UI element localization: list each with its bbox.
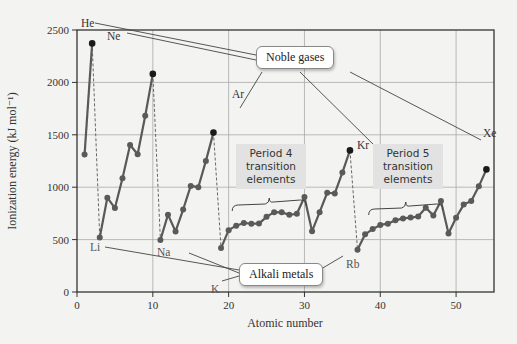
period4-line2: transition xyxy=(240,160,302,173)
noble-gas-point xyxy=(210,129,217,136)
leader-line-kr xyxy=(300,72,377,148)
data-point xyxy=(241,220,247,226)
data-point xyxy=(195,184,201,190)
data-point xyxy=(226,227,232,233)
data-point xyxy=(82,152,88,158)
period5-line2: transition xyxy=(377,160,439,173)
data-point xyxy=(97,235,103,241)
series-line xyxy=(160,133,213,240)
period5-transition-label: Period 5 transition elements xyxy=(373,144,443,189)
y-tick-label: 1500 xyxy=(47,129,70,141)
dashed-drop xyxy=(153,74,161,240)
noble-gas-point xyxy=(483,166,490,173)
data-point xyxy=(446,231,452,237)
data-point xyxy=(294,211,300,217)
data-point xyxy=(256,221,262,227)
x-tick-label: 10 xyxy=(147,299,159,311)
label-xe: Xe xyxy=(483,127,496,139)
data-point xyxy=(370,226,376,232)
data-point xyxy=(112,205,118,211)
label-na: Na xyxy=(157,246,170,258)
period4-transition-label: Period 4 transition elements xyxy=(236,144,306,189)
transition-braces xyxy=(232,198,443,215)
data-point xyxy=(142,113,148,119)
leader-line-li xyxy=(105,247,239,270)
period4-line1: Period 4 xyxy=(240,147,302,160)
label-he: He xyxy=(81,17,94,29)
noble-gases-callout: Noble gases xyxy=(256,46,334,69)
x-tick-label: 20 xyxy=(223,299,235,311)
data-point xyxy=(180,207,186,213)
data-point xyxy=(301,194,307,200)
data-point xyxy=(332,190,338,196)
data-point xyxy=(339,170,345,176)
x-tick-label: 0 xyxy=(74,299,80,311)
data-point xyxy=(173,228,179,234)
data-point xyxy=(233,223,239,229)
series-line xyxy=(85,43,93,154)
data-point xyxy=(248,221,254,227)
data-point xyxy=(392,217,398,223)
data-point xyxy=(408,215,414,221)
period5-line3: elements xyxy=(377,173,439,186)
label-rb: Rb xyxy=(346,258,360,270)
label-ar: Ar xyxy=(232,88,244,100)
dashed-drop xyxy=(350,150,358,249)
data-point xyxy=(362,231,368,237)
label-li: Li xyxy=(90,241,100,253)
dashed-drop xyxy=(213,133,221,248)
data-point xyxy=(127,142,133,148)
noble-gas-point xyxy=(150,71,157,78)
period4-line3: elements xyxy=(240,173,302,186)
x-axis-ticks: 01020304050 xyxy=(74,292,462,311)
label-k: K xyxy=(211,283,220,295)
data-point xyxy=(324,190,330,196)
data-point xyxy=(377,222,383,228)
noble-gas-point xyxy=(89,40,96,47)
leader-line-ne xyxy=(127,33,256,60)
y-tick-label: 2000 xyxy=(47,76,70,88)
x-tick-label: 30 xyxy=(299,299,311,311)
data-point xyxy=(165,212,171,218)
data-point xyxy=(157,237,163,243)
data-point xyxy=(203,158,209,164)
data-point xyxy=(309,228,315,234)
data-point xyxy=(438,198,444,204)
x-tick-label: 50 xyxy=(451,299,463,311)
series-line xyxy=(100,74,153,238)
data-point xyxy=(218,245,224,251)
y-axis-title: Ionization energy (kJ mol⁻¹) xyxy=(5,92,19,229)
data-point xyxy=(188,183,194,189)
label-ne: Ne xyxy=(107,30,120,42)
data-point xyxy=(468,198,474,204)
leader-line-k xyxy=(222,276,239,281)
x-tick-label: 40 xyxy=(375,299,387,311)
data-point xyxy=(400,215,406,221)
data-point xyxy=(286,212,292,218)
data-point xyxy=(415,214,421,220)
data-point xyxy=(279,209,285,215)
data-point xyxy=(271,209,277,215)
data-point xyxy=(135,151,141,157)
data-point xyxy=(423,205,429,211)
y-tick-label: 500 xyxy=(53,234,70,246)
data-point xyxy=(317,209,323,215)
alkali-metals-callout: Alkali metals xyxy=(239,263,323,286)
data-point xyxy=(355,247,361,253)
y-tick-label: 1000 xyxy=(47,181,70,193)
data-point xyxy=(430,212,436,218)
y-tick-label: 2500 xyxy=(47,24,70,36)
data-point xyxy=(385,221,391,227)
x-axis-title: Atomic number xyxy=(247,316,323,330)
dashed-drop xyxy=(92,43,100,237)
data-point xyxy=(453,215,459,221)
data-point xyxy=(476,183,482,189)
label-kr: Kr xyxy=(357,139,369,151)
data-point xyxy=(461,202,467,208)
data-point xyxy=(264,214,270,220)
period4-brace xyxy=(232,198,306,211)
noble-gas-point xyxy=(347,147,354,154)
y-axis-ticks: 05001000150020002500 xyxy=(47,24,77,298)
data-point xyxy=(119,175,125,181)
y-tick-label: 0 xyxy=(64,286,70,298)
